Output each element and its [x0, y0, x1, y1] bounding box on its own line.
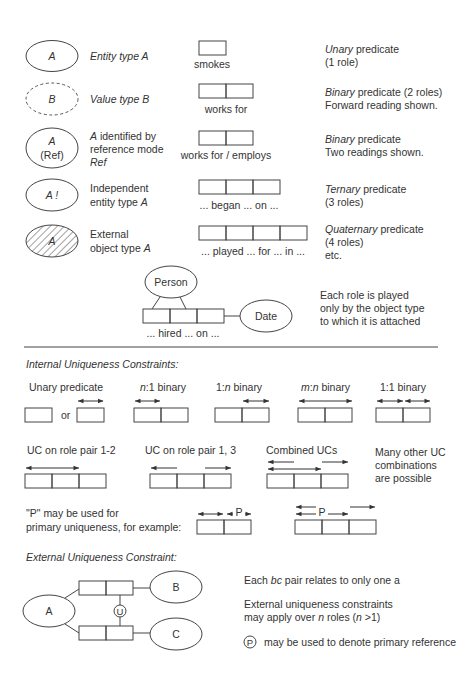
value-type-symbol: B	[48, 93, 55, 105]
uc-label: 1:1 binary	[380, 381, 427, 393]
predicate-binary: works for Binary predicate (2 roles) For…	[199, 84, 442, 115]
uc-label: UC on role pair 1, 3	[145, 444, 236, 456]
uc-m-n-binary: m:n binary	[298, 381, 352, 422]
primary-note-1: "P" may be used for	[26, 507, 119, 519]
external-note-3: may apply over n roles (n >1)	[244, 611, 380, 623]
role-box	[143, 309, 170, 323]
uc-unary: Unary predicate or	[25, 381, 104, 422]
role-box	[134, 408, 161, 422]
role-box	[170, 309, 197, 323]
value-type-desc: Value type B	[90, 93, 149, 105]
role-box	[77, 408, 104, 422]
predicate-desc-1: Binary predicate (2 roles)	[325, 86, 442, 98]
role-box	[199, 226, 226, 240]
external-object-symbol: A	[47, 235, 55, 247]
p-label: P	[235, 506, 242, 518]
ref-mode-desc-1: A identified by	[89, 130, 157, 142]
predicate-desc-2: Two readings shown.	[325, 146, 424, 158]
uc-note-3: are possible	[375, 472, 432, 484]
uc-combined: Combined UCs Many other UC combinations …	[266, 444, 446, 488]
role-box	[226, 84, 253, 98]
role-box	[204, 474, 231, 488]
role-box	[253, 180, 280, 194]
uc-label: UC on role pair 1-2	[27, 444, 116, 456]
role-box	[376, 408, 403, 422]
uc-label: Combined UCs	[266, 444, 337, 456]
predicate-desc-2: (4 roles)	[325, 236, 364, 248]
uc-label: m:n binary	[301, 381, 351, 393]
uc-note-2: combinations	[375, 459, 437, 471]
predicate-reading: ... played ... for ... in ...	[201, 245, 305, 257]
object-type-ref-mode: A (Ref) A identified by reference mode R…	[26, 128, 164, 168]
object-type-value: B Value type B	[26, 83, 149, 115]
external-desc-1: External	[90, 228, 129, 240]
ref-mode-sub: (Ref)	[40, 149, 63, 161]
role-desc-2: only by the object type	[320, 302, 425, 314]
external-uc-notes: Each bc pair relates to only one a Exter…	[244, 574, 456, 648]
role-box	[242, 408, 269, 422]
person-label: Person	[154, 276, 187, 288]
role-desc-1: Each role is played	[320, 289, 409, 301]
role-box	[325, 408, 352, 422]
role-box	[199, 41, 226, 55]
uc-1-1-binary: 1:1 binary	[376, 381, 430, 422]
role-box	[177, 474, 204, 488]
role-box	[280, 226, 307, 240]
predicate-desc-2: (3 roles)	[325, 196, 364, 208]
role-connector	[152, 297, 160, 309]
object-type-entity: A Entity type A	[26, 41, 149, 72]
predicate-quaternary: ... played ... for ... in ... Quaternary…	[199, 223, 424, 261]
predicate-ternary: ... began ... on ... Ternary predicate (…	[199, 180, 406, 211]
predicate-desc-1: Quaternary predicate	[325, 223, 424, 235]
role-box	[226, 180, 253, 194]
p-label: P	[247, 637, 253, 648]
role-box	[267, 474, 294, 488]
ref-mode-desc-2: reference mode	[90, 143, 164, 155]
role-desc-3: to which it is attached	[320, 315, 421, 327]
object-b-label: B	[172, 581, 179, 593]
external-uc-title: External Uniqueness Constraint:	[26, 551, 177, 563]
uc-role-pair-1-2: UC on role pair 1-2	[25, 444, 116, 488]
uc-label: n:1 binary	[140, 381, 187, 393]
internal-uc-title: Internal Uniqueness Constraints:	[26, 358, 178, 370]
entity-type-symbol: A	[47, 50, 55, 62]
or-label: or	[61, 409, 71, 421]
role-box	[25, 474, 52, 488]
role-box	[150, 474, 177, 488]
external-desc-2: object type A	[90, 242, 151, 254]
role-box	[79, 626, 106, 640]
external-note-2: External uniqueness constraints	[244, 598, 393, 610]
ref-mode-symbol: A	[47, 135, 55, 147]
role-box	[106, 626, 133, 640]
primary-note-2: primary uniqueness, for example:	[26, 521, 181, 533]
role-box	[322, 520, 349, 534]
predicate-desc-1: Unary predicate	[325, 43, 399, 55]
predicate-desc-1: Binary predicate	[325, 133, 401, 145]
predicate-desc-1: Ternary predicate	[325, 183, 406, 195]
role-box	[199, 131, 226, 145]
date-label: Date	[255, 310, 277, 322]
role-box	[197, 520, 224, 534]
role-box	[25, 408, 52, 422]
role-box	[403, 408, 430, 422]
object-c-label: C	[172, 628, 180, 640]
predicate-desc-2: Forward reading shown.	[325, 99, 438, 111]
p-label: P	[318, 506, 325, 518]
independent-desc-1: Independent	[90, 182, 148, 194]
role-box	[224, 520, 251, 534]
independent-desc-2: entity type A	[90, 196, 148, 208]
uc-note-1: Many other UC	[375, 446, 446, 458]
predicate-reading: works for	[204, 103, 248, 115]
role-connector	[65, 589, 79, 598]
role-box	[349, 520, 376, 534]
uc-role-pair-1-3: UC on role pair 1, 3	[145, 444, 236, 488]
predicate-reading: smokes	[194, 58, 230, 70]
external-note-4: may be used to denote primary reference	[264, 636, 456, 648]
role-box	[295, 520, 322, 534]
predicate-unary: smokes Unary predicate (1 role)	[194, 41, 399, 70]
role-box	[199, 84, 226, 98]
primary-uniqueness-examples: "P" may be used for primary uniqueness, …	[26, 505, 376, 534]
role-box	[321, 474, 348, 488]
external-note-1: Each bc pair relates to only one a	[244, 574, 400, 586]
uc-label: Unary predicate	[29, 381, 103, 393]
